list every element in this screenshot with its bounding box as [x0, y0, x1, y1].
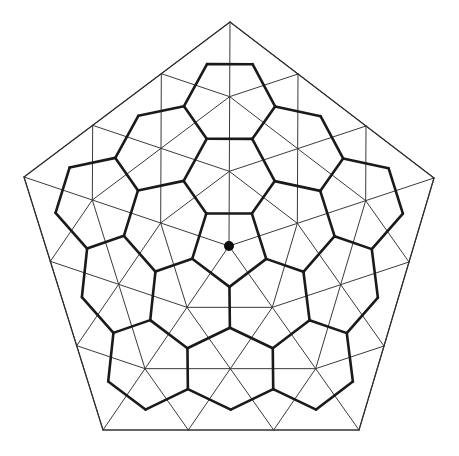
cell-edge: [320, 158, 343, 190]
cell-edge: [184, 181, 207, 214]
cell-edge: [347, 298, 378, 334]
cell-edge: [252, 181, 275, 213]
cell-edge: [230, 328, 273, 348]
cell-edge: [150, 272, 155, 321]
triangle-mesh: [24, 22, 434, 430]
cell-edge: [372, 214, 403, 250]
cell-edge: [124, 236, 156, 272]
cell-edge: [150, 320, 187, 348]
cell-edge: [320, 191, 334, 236]
cell-edge: [188, 389, 231, 409]
cell-edge: [231, 389, 273, 409]
cell-edge: [229, 259, 266, 287]
cell-edge: [253, 64, 276, 106]
cell-edge: [335, 236, 372, 249]
cell-edge: [372, 249, 378, 297]
cell-edge: [252, 139, 275, 181]
cell-edge: [124, 190, 138, 235]
cell-edge: [184, 64, 207, 106]
mesh-edge: [161, 223, 229, 246]
cell-edge: [113, 320, 150, 333]
center-node-dot: [224, 241, 234, 251]
cell-edge: [56, 213, 88, 249]
cell-edge: [82, 249, 87, 298]
cell-edge: [56, 167, 70, 212]
cell-edge: [115, 158, 138, 191]
cell-edge: [187, 328, 229, 348]
mesh-edge: [366, 178, 434, 201]
cell-edge: [184, 106, 207, 139]
cell-edge: [87, 236, 124, 249]
cell-edge: [321, 116, 344, 158]
mesh-edge: [229, 223, 297, 246]
cell-edge: [347, 333, 353, 381]
cell-edge: [273, 320, 310, 348]
cell-edge: [310, 320, 347, 333]
cell-edge: [303, 236, 334, 272]
cell-edge: [192, 213, 206, 258]
mesh-edge: [297, 201, 365, 224]
cell-edge: [155, 259, 192, 272]
cell-edge: [266, 259, 303, 272]
cell-edge: [303, 272, 309, 320]
cell-edge: [389, 168, 403, 213]
cell-edge: [108, 381, 145, 409]
mesh-edge: [24, 177, 92, 200]
cell-edge: [192, 259, 229, 287]
cell-edge: [115, 116, 138, 158]
cell-edge: [108, 333, 113, 382]
cell-edge: [252, 106, 275, 138]
cell-edge: [316, 382, 353, 410]
cell-edge: [82, 297, 114, 333]
cell-edge: [252, 214, 266, 259]
geodesic-pentagon-diagram: [0, 0, 459, 456]
mesh-edge: [92, 200, 160, 223]
cell-edge: [273, 389, 316, 409]
cell-edge: [184, 139, 207, 181]
cell-edge: [145, 389, 187, 409]
